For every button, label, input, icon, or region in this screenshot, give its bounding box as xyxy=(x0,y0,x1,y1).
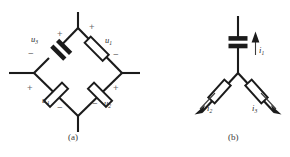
label-u2: u2 xyxy=(104,99,111,108)
label-i3: i3 xyxy=(252,104,257,113)
wire-top-left-upper xyxy=(62,28,78,45)
caption-a: (a) xyxy=(68,133,78,142)
current-i1-head xyxy=(252,32,260,43)
current-i2-head xyxy=(195,105,206,115)
capacitor-u3 xyxy=(52,40,71,59)
polarity-plus-u3: + xyxy=(57,29,63,39)
circuit-figure: u3 u1 u4 u2 + − + − + − + − i1 i2 i3 (a)… xyxy=(0,0,290,157)
polarity-minus-u4: − xyxy=(57,103,63,113)
caption-b: (b) xyxy=(228,133,239,142)
label-i1: i1 xyxy=(259,46,264,55)
label-u3: u3 xyxy=(31,35,38,44)
polarity-plus-u2: + xyxy=(113,83,119,93)
resistor-left-b-body xyxy=(208,80,230,104)
current-i3-head xyxy=(271,105,282,115)
circuit-svg xyxy=(0,0,290,157)
polarity-plus-u1: + xyxy=(89,22,95,32)
current-i3-arrow xyxy=(261,93,282,115)
panel-a-group xyxy=(9,12,140,132)
label-u1: u1 xyxy=(105,36,112,45)
polarity-minus-u2: − xyxy=(92,99,98,109)
polarity-minus-u3: − xyxy=(28,49,34,59)
resistor-right-b-body xyxy=(245,80,267,104)
wire-top-left-lower xyxy=(34,58,49,73)
polarity-minus-u1: − xyxy=(113,50,119,60)
label-u4: u4 xyxy=(42,96,49,105)
polarity-plus-u4: + xyxy=(27,83,33,93)
label-i2: i2 xyxy=(207,104,212,113)
capacitor-b xyxy=(229,38,248,46)
panel-b-group xyxy=(195,16,282,115)
